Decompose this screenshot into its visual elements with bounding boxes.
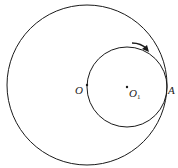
point-o1-dot bbox=[126, 86, 128, 88]
label-o1: O1 bbox=[129, 87, 141, 101]
label-o: O bbox=[75, 84, 83, 96]
label-a: A bbox=[167, 84, 175, 96]
point-o-dot bbox=[86, 84, 88, 86]
diagram-canvas: O O1 A bbox=[0, 0, 178, 168]
